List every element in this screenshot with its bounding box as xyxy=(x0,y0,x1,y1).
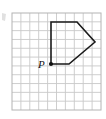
figure-container: P xyxy=(0,0,106,119)
point-p-dot xyxy=(49,62,53,66)
geometry-figure: P xyxy=(0,0,106,119)
point-p-label: P xyxy=(37,58,45,70)
